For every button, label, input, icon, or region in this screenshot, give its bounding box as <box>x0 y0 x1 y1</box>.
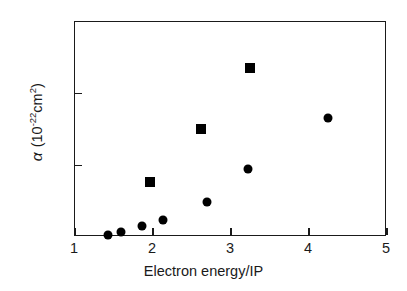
y-tick <box>75 165 82 166</box>
ylabel-close: ) <box>29 83 45 88</box>
y-tick <box>75 93 82 94</box>
x-tick-label: 5 <box>382 241 390 256</box>
x-tick-label: 3 <box>226 241 234 256</box>
x-tick <box>230 228 231 235</box>
data-point-circle <box>137 221 146 230</box>
ylabel-unit: cm <box>29 93 45 112</box>
y-axis-title: α(10-22cm2) <box>28 12 44 232</box>
data-point-square <box>245 63 255 73</box>
ylabel-unit-exponent: 2 <box>27 88 38 93</box>
data-point-square <box>196 124 206 134</box>
data-point-circle <box>324 114 333 123</box>
x-tick <box>152 228 153 235</box>
ylabel-open: (10 <box>29 126 45 147</box>
plot-area <box>74 21 386 236</box>
data-point-square <box>145 177 155 187</box>
x-axis-title: Electron energy/IP <box>0 264 407 279</box>
data-point-circle <box>243 164 252 173</box>
x-tick <box>74 228 75 235</box>
x-tick-label: 4 <box>304 241 312 256</box>
x-tick-label: 1 <box>70 241 78 256</box>
scatter-chart-figure: 12345 00.511.5 Electron energy/IP α(10-2… <box>0 0 407 291</box>
x-tick-label: 2 <box>148 241 156 256</box>
x-tick <box>308 228 309 235</box>
data-point-circle <box>158 216 167 225</box>
alpha-symbol: α <box>28 152 45 161</box>
data-point-circle <box>203 197 212 206</box>
data-point-circle <box>104 230 113 239</box>
data-point-circle <box>116 227 125 236</box>
ylabel-exponent: -22 <box>27 113 38 127</box>
x-tick <box>386 228 387 235</box>
